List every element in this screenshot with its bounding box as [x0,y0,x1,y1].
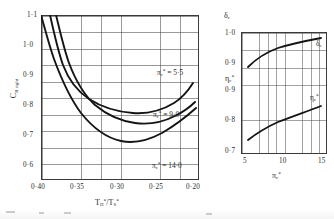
x-axis-sup: * [278,171,281,177]
right-y-lower-tick-0: 0·9 [225,86,235,94]
left-chart-curves [41,15,199,180]
left-y-tick-5: 0·6 [23,161,33,169]
right-x-tick-0: 5 [243,157,247,165]
x-axis-num-sup: * [103,198,106,204]
y-axis-symbol: C [9,93,18,98]
right-chart-upper-axis-label: δc [224,11,230,20]
curve-pi-14-0 [41,15,196,142]
right-y-upper-tick-1: 0·9 [225,59,235,67]
scan-speck [39,212,44,214]
y-axis-subscript: R right [14,79,19,93]
left-chart-x-axis-label: TH*/TS* [95,198,119,207]
left-y-tick-3: 0·8 [23,101,33,109]
right-y-upper-tick-0: 1·0 [225,29,235,37]
annotation-sub: c [319,43,321,48]
right-y-lower-tick-2: 0·7 [225,147,235,155]
left-y-tick-0: 1·1 [27,11,37,19]
left-y-tick-4: 0·7 [23,131,33,139]
left-x-tick-2: 0·30 [110,183,124,191]
right-y-lower-tick-1: 0·8 [225,116,235,124]
annotation-eta-c: ηc* [310,93,319,102]
right-chart-lower-axis-label: ηc* [225,74,234,83]
scan-speck [206,213,212,215]
right-x-tick-1: 10 [279,157,287,165]
right-chart-x-axis-label: πc* [272,171,281,180]
annotation-pi-9-0: πc* = 9·0 [153,110,179,119]
lower-axis-sup: * [231,74,234,80]
annotation-value: 9·0 [169,110,179,119]
upper-axis-sub: c [228,15,230,20]
scan-gradient [0,210,334,219]
curve-eta-c [248,106,321,140]
curve-delta-c [248,38,321,67]
annotation-value: 14·0 [168,161,182,170]
left-x-tick-1: 0·35 [70,183,84,191]
annotation-sup: * [316,93,319,99]
left-chart-y-axis-label: CR right [9,61,18,117]
left-x-tick-0: 0·40 [31,183,45,191]
annotation-delta-c: δc [316,39,322,48]
annotation-value: 5·5 [173,68,183,77]
annotation-pi-5-5: πc* = 5·5 [157,68,183,77]
left-y-tick-2: 0·9 [23,71,33,79]
left-x-tick-4: 0·20 [186,183,200,191]
left-y-tick-1: 1·0 [23,41,33,49]
left-x-tick-3: 0·25 [149,183,163,191]
scan-speck [64,212,71,214]
x-axis-den-sup: * [116,198,119,204]
scan-speck [6,211,15,213]
annotation-pi-14-0: πc* = 14·0 [152,161,182,170]
figure-canvas: 1·1 1·0 0·9 0·8 0·7 0·6 0·40 0·35 0·30 0… [0,0,334,219]
right-x-tick-2: 15 [318,157,326,165]
